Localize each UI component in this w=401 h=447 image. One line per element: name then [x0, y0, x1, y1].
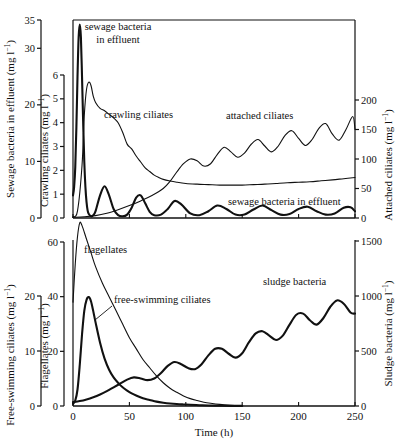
annotation-attached-ciliates: attached ciliates — [226, 110, 293, 121]
axis-title-attached: Attached ciliates (mg l−1) — [381, 109, 395, 221]
chart-background — [0, 0, 401, 447]
ticklabel-crawling-4: 4 — [53, 117, 59, 128]
ticklabel-sludge-500: 500 — [361, 346, 377, 357]
annotation-sewage-baseline: sewage bacteria in effluent — [228, 196, 341, 207]
xticklabel-50: 50 — [124, 410, 136, 422]
ticklabel-sludge-1000: 1000 — [361, 291, 382, 302]
ticklabel-crawling-1: 1 — [53, 189, 58, 200]
ticklabel-freeswim-10: 10 — [25, 346, 36, 357]
ticklabel-flagellates-40: 40 — [48, 291, 59, 302]
annotation-sewage-peak-line2: in effluent — [96, 34, 139, 45]
ticklabel-attached-50: 50 — [361, 183, 372, 194]
annotation-sewage-peak-line1: sewage bacteria — [85, 21, 152, 32]
figure-root: 010203035Sewage bacteria in effluent (mg… — [0, 0, 401, 447]
axis-title-flagellates: Flagellates (mg l−1) — [37, 303, 51, 389]
axis-title-sewage: Sewage bacteria in effluent (mg l−1) — [3, 40, 17, 198]
ticklabel-flagellates-60: 60 — [48, 237, 59, 248]
ticklabel-crawling-2: 2 — [53, 165, 58, 176]
xticklabel-0: 0 — [70, 410, 76, 422]
ticklabel-sludge-1500: 1500 — [361, 236, 382, 247]
ticklabel-sewage-10: 10 — [25, 156, 36, 167]
ticklabel-freeswim-20: 20 — [25, 291, 36, 302]
ticklabel-attached-200: 200 — [361, 95, 377, 106]
axis-title-crawling: Crawling ciliates (mg l−1) — [37, 94, 51, 207]
axis-title-sludge: Sludge bacteria (mg l−1) — [381, 280, 395, 386]
annotation-crawling-ciliates: crawling ciliates — [104, 109, 173, 120]
axis-title-time: Time (h) — [195, 426, 234, 439]
xticklabel-150: 150 — [234, 410, 251, 422]
ticklabel-freeswim-0: 0 — [30, 401, 35, 412]
axis-title-freeswim: Free-swimming ciliates (mg l−1) — [3, 284, 17, 426]
ticklabel-attached-150: 150 — [361, 124, 377, 135]
ticklabel-crawling-3: 3 — [53, 141, 58, 152]
ticklabel-crawling-6: 6 — [53, 70, 58, 81]
annotation-free-swimming-ciliates: free-swimming ciliates — [114, 294, 211, 305]
xticklabel-100: 100 — [178, 410, 195, 422]
ticklabel-sewage-35: 35 — [25, 15, 36, 26]
xticklabel-200: 200 — [290, 410, 307, 422]
ticklabel-flagellates-0: 0 — [53, 401, 58, 412]
annotation-sludge-bacteria: sludge bacteria — [263, 276, 327, 287]
ticklabel-attached-0: 0 — [361, 213, 366, 224]
ticklabel-sewage-30: 30 — [25, 43, 36, 54]
ticklabel-sewage-0: 0 — [30, 213, 35, 224]
xticklabel-250: 250 — [347, 410, 364, 422]
ticklabel-attached-100: 100 — [361, 154, 377, 165]
ticklabel-sewage-20: 20 — [25, 99, 36, 110]
dual-panel-line-chart: 010203035Sewage bacteria in effluent (mg… — [0, 0, 401, 447]
ticklabel-crawling-0: 0 — [53, 213, 58, 224]
ticklabel-crawling-5: 5 — [53, 93, 58, 104]
annotation-flagellates: flagellates — [84, 244, 127, 255]
